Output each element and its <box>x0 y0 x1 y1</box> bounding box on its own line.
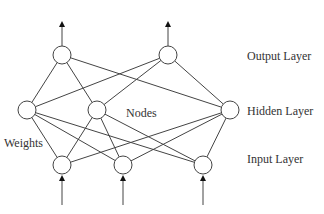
weight-edge <box>32 63 57 103</box>
weight-edge <box>35 58 159 106</box>
input-arrow-head-icon <box>120 175 126 181</box>
nodes-label: Nodes <box>126 106 157 121</box>
input-node <box>194 156 212 174</box>
input-layer-label: Input Layer <box>247 152 303 167</box>
weight-edge <box>67 63 92 103</box>
weights-label: Weights <box>4 136 43 151</box>
weight-edge <box>35 114 115 160</box>
input-arrow-head-icon <box>200 175 206 181</box>
output-arrow-head-icon <box>59 21 65 27</box>
input-node <box>114 156 132 174</box>
hidden-node <box>18 101 36 119</box>
input-node <box>53 156 71 174</box>
hidden-node <box>221 101 239 119</box>
weight-edge <box>207 118 226 157</box>
output-node <box>53 46 71 64</box>
hidden-node <box>88 101 106 119</box>
input-arrow-head-icon <box>59 175 65 181</box>
hidden-layer-label: Hidden Layer <box>247 104 313 119</box>
output-arrow-head-icon <box>165 21 171 27</box>
weight-edge <box>36 113 195 163</box>
weight-edge <box>104 61 161 105</box>
weight-edge <box>105 114 195 161</box>
weight-edge <box>175 61 224 104</box>
output-node <box>159 46 177 64</box>
output-layer-label: Output Layer <box>247 49 311 64</box>
